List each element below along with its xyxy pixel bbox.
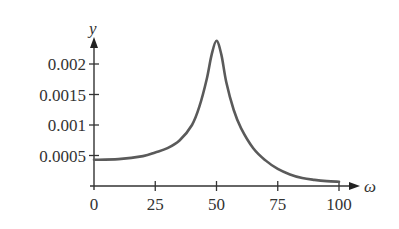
y-axis-arrow-icon <box>90 37 98 48</box>
x-axis-arrow-icon <box>349 182 360 190</box>
y-tick-label: 0.0015 <box>39 86 86 105</box>
x-tick-label: 0 <box>90 195 99 214</box>
y-axis: y <box>87 19 98 190</box>
x-tick-label: 50 <box>208 195 225 214</box>
y-tick-label: 0.0005 <box>39 147 86 166</box>
y-tick-label: 0.002 <box>48 55 86 74</box>
x-tick-label: 100 <box>326 195 352 214</box>
x-tick-label: 25 <box>147 195 164 214</box>
data-curve <box>94 41 339 182</box>
y-ticks: 0.00050.0010.00150.002 <box>39 55 99 166</box>
x-axis: ω <box>90 177 376 196</box>
x-tick-label: 75 <box>269 195 286 214</box>
y-axis-label: y <box>87 19 97 38</box>
resonance-chart: y ω 0255075100 0.00050.0010.00150.002 <box>0 0 399 229</box>
x-axis-label: ω <box>364 177 376 196</box>
y-tick-label: 0.001 <box>48 116 86 135</box>
